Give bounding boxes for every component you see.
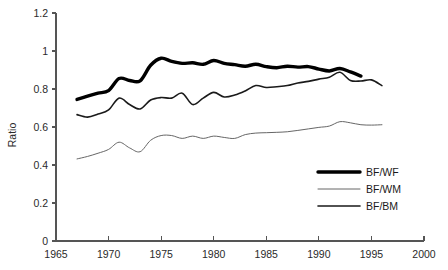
y-tick-label: 0.4 — [33, 159, 48, 171]
x-tick-label: 1995 — [360, 248, 384, 260]
y-tick-label: 1 — [42, 45, 48, 57]
y-tick-label: 0.8 — [33, 83, 48, 95]
chart-legend: BF/WFBF/WMBF/BM — [318, 166, 401, 212]
line-chart: 00.20.40.60.811.2 1965197019751980198519… — [0, 0, 448, 270]
x-tick-label: 1990 — [307, 248, 331, 260]
y-axis-title: Ratio — [6, 123, 18, 148]
legend-label-bf-bm: BF/BM — [366, 200, 398, 212]
x-tick-label: 2000 — [412, 248, 436, 260]
x-axis-ticks: 19651970197519801985199019952000 — [44, 236, 436, 260]
y-tick-label: 0.6 — [33, 121, 48, 133]
chart-figure: 00.20.40.60.811.2 1965197019751980198519… — [0, 0, 448, 270]
y-axis-ticks: 00.20.40.60.811.2 — [33, 7, 56, 247]
x-tick-label: 1980 — [202, 248, 226, 260]
series-lines — [77, 58, 382, 159]
x-tick-label: 1970 — [97, 248, 121, 260]
y-tick-label: 1.2 — [33, 7, 48, 19]
x-tick-label: 1985 — [255, 248, 279, 260]
series-line-bf-wm — [77, 122, 382, 159]
x-tick-label: 1975 — [149, 248, 173, 260]
y-tick-label: 0.2 — [33, 197, 48, 209]
x-tick-label: 1965 — [44, 248, 68, 260]
legend-label-bf-wf: BF/WF — [366, 166, 399, 178]
y-tick-label: 0 — [42, 235, 48, 247]
legend-label-bf-wm: BF/WM — [366, 183, 401, 195]
